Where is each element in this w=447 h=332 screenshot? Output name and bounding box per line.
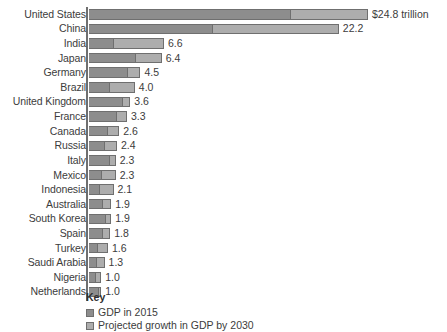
bar-segment-gdp-2015	[89, 142, 104, 151]
stacked-bar	[89, 199, 111, 210]
chart-row: Australia1.9	[0, 197, 447, 212]
category-label: Nigeria	[0, 272, 89, 283]
chart-legend: Key GDP in 2015 Projected growth in GDP …	[86, 291, 254, 332]
bar-segment-gdp-2015	[89, 39, 113, 48]
bar-value-label: 2.3	[120, 170, 135, 181]
category-label: India	[0, 38, 89, 49]
legend-swatch-icon-gdp-2015	[86, 309, 94, 317]
bar-segment-gdp-2015	[89, 244, 97, 253]
bar-segment-projected-growth	[290, 10, 367, 19]
bar-segment-gdp-2015	[89, 258, 96, 267]
bar-segment-projected-growth	[109, 83, 134, 92]
chart-row: Russia2.4	[0, 138, 447, 153]
chart-row: Mexico2.3	[0, 168, 447, 183]
stacked-bar	[89, 141, 117, 152]
bar-segment-gdp-2015	[89, 112, 116, 121]
bar-zone: 1.6	[89, 241, 447, 256]
bar-zone: 1.8	[89, 226, 447, 241]
bar-segment-gdp-2015	[89, 54, 135, 63]
category-label: Canada	[0, 126, 89, 137]
bar-value-label: $24.8 trillion	[372, 9, 429, 20]
bar-segment-gdp-2015	[89, 229, 102, 238]
bar-segment-projected-growth	[113, 39, 163, 48]
chart-row: China22.2	[0, 22, 447, 37]
bar-segment-projected-growth	[95, 273, 101, 282]
stacked-bar	[89, 170, 116, 181]
stacked-bar	[89, 38, 164, 49]
bar-segment-projected-growth	[96, 258, 104, 267]
legend-item-projected-growth: Projected growth in GDP by 2030	[86, 319, 254, 332]
bar-segment-gdp-2015	[89, 83, 109, 92]
chart-row: United Kingdom3.6	[0, 95, 447, 110]
category-label: France	[0, 111, 89, 122]
bar-zone: 4.5	[89, 65, 447, 80]
chart-row: Saudi Arabia1.3	[0, 255, 447, 270]
chart-row: Japan6.4	[0, 51, 447, 66]
bar-segment-projected-growth	[99, 185, 112, 194]
stacked-bar	[89, 9, 368, 20]
legend-label-projected-growth: Projected growth in GDP by 2030	[98, 320, 254, 331]
bar-zone: 2.3	[89, 153, 447, 168]
stacked-bar	[89, 214, 111, 225]
bar-zone: 1.3	[89, 255, 447, 270]
legend-item-gdp-2015: GDP in 2015	[86, 306, 254, 319]
bar-value-label: 2.6	[123, 126, 138, 137]
stacked-bar	[89, 184, 114, 195]
chart-row: France3.3	[0, 109, 447, 124]
chart-row: Italy2.3	[0, 153, 447, 168]
bar-segment-gdp-2015	[89, 200, 102, 209]
bar-value-label: 4.5	[144, 67, 159, 78]
bar-segment-gdp-2015	[89, 215, 105, 224]
chart-row: South Korea1.9	[0, 212, 447, 227]
legend-title: Key	[86, 291, 254, 303]
bar-segment-projected-growth	[122, 98, 130, 107]
bar-value-label: 3.6	[134, 96, 149, 107]
legend-swatch-icon-projected-growth	[86, 322, 94, 330]
category-label: Mexico	[0, 170, 89, 181]
chart-row: Turkey1.6	[0, 241, 447, 256]
bar-value-label: 2.3	[120, 155, 135, 166]
stacked-bar	[89, 111, 127, 122]
bar-zone: 22.2	[89, 22, 447, 37]
bar-value-label: 2.4	[121, 140, 136, 151]
stacked-bar	[89, 53, 162, 64]
bar-zone: 6.6	[89, 36, 447, 51]
legend-label-gdp-2015: GDP in 2015	[98, 307, 158, 318]
bar-segment-projected-growth	[127, 68, 139, 77]
bar-zone: 2.6	[89, 124, 447, 139]
chart-row: Brazil4.0	[0, 80, 447, 95]
bar-zone: 2.4	[89, 138, 447, 153]
bar-value-label: 6.4	[166, 53, 181, 64]
category-label: Russia	[0, 140, 89, 151]
bar-segment-gdp-2015	[89, 185, 99, 194]
stacked-bar	[89, 155, 116, 166]
bar-zone: 4.0	[89, 80, 447, 95]
category-label: Australia	[0, 199, 89, 210]
bar-value-label: 3.3	[131, 111, 146, 122]
bar-segment-projected-growth	[102, 229, 109, 238]
category-label: Japan	[0, 53, 89, 64]
category-label: Indonesia	[0, 184, 89, 195]
bar-value-label: 1.9	[115, 213, 130, 224]
chart-row: Germany4.5	[0, 65, 447, 80]
bar-value-label: 4.0	[139, 82, 154, 93]
bar-segment-projected-growth	[97, 244, 107, 253]
chart-row: Spain1.8	[0, 226, 447, 241]
bar-segment-gdp-2015	[89, 171, 101, 180]
category-label: Spain	[0, 228, 89, 239]
chart-row: United States$24.8 trillion	[0, 7, 447, 22]
category-label: Netherlands	[0, 286, 89, 297]
bar-value-label: 6.6	[168, 38, 183, 49]
bar-zone: 1.0	[89, 270, 447, 285]
bar-segment-projected-growth	[109, 156, 115, 165]
bar-segment-gdp-2015	[89, 98, 122, 107]
stacked-bar	[89, 126, 119, 137]
category-label: United Kingdom	[0, 96, 89, 107]
bar-segment-gdp-2015	[89, 156, 109, 165]
stacked-bar	[89, 243, 108, 254]
stacked-bar	[89, 24, 339, 35]
plot-area: United States$24.8 trillionChina22.2Indi…	[0, 7, 447, 299]
bar-segment-gdp-2015	[89, 127, 107, 136]
bar-value-label: 1.3	[109, 257, 124, 268]
stacked-bar	[89, 67, 140, 78]
